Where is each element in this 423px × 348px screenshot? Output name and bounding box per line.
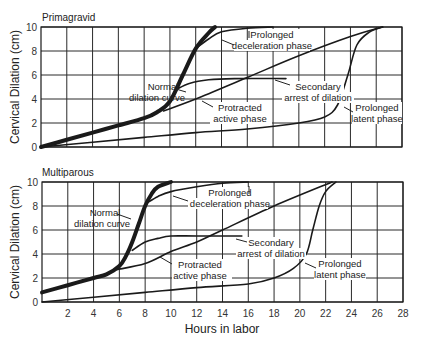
primagravid-panel: Primagravid 0246810 Cervical Dilation (c… <box>8 12 403 153</box>
leader-line <box>275 80 290 85</box>
leader-line <box>160 257 172 264</box>
y-ticks-bottom: 0246810 <box>27 177 39 308</box>
y-tick-label: 6 <box>31 70 37 81</box>
x-tick-label: 4 <box>91 308 97 319</box>
svg-text:Prolonged: Prolonged <box>355 102 398 113</box>
multiparous-panel: Multiparous 0246810 24681012141618202224… <box>8 167 409 336</box>
y-ticks-top: 0246810 <box>26 22 38 153</box>
y-tick-label: 8 <box>31 46 37 57</box>
leader-line <box>202 101 213 107</box>
svg-text:dilation curve: dilation curve <box>74 218 130 229</box>
x-tick-label: 14 <box>217 308 229 319</box>
leader-line <box>305 263 316 268</box>
svg-text:Normal: Normal <box>148 81 179 92</box>
y-tick-label: 2 <box>31 118 37 129</box>
x-tick-label: 16 <box>243 308 255 319</box>
svg-text:latent phase: latent phase <box>351 113 403 124</box>
y-tick-label: 8 <box>32 201 38 212</box>
panel-title-multiparous: Multiparous <box>42 167 94 178</box>
y-tick-label: 10 <box>27 177 39 188</box>
x-tick-label: 2 <box>65 308 71 319</box>
y-tick-label: 0 <box>32 297 38 308</box>
x-tick-label: 26 <box>372 308 384 319</box>
annotation-normal-bottom: Normal dilation curve <box>74 207 131 229</box>
x-axis-label: Hours in labor <box>185 322 260 336</box>
y-tick-label: 10 <box>26 22 38 33</box>
svg-text:Protracted: Protracted <box>218 102 262 113</box>
y-tick-label: 6 <box>32 225 38 236</box>
x-tick-label: 22 <box>320 308 332 319</box>
x-tick-label: 12 <box>191 308 203 319</box>
svg-text:Prolonged: Prolonged <box>208 187 251 198</box>
annotation-latent-bottom: Prolonged latent phase <box>305 258 366 280</box>
x-tick-label: 10 <box>165 308 177 319</box>
svg-text:latent phase: latent phase <box>314 269 366 280</box>
annotation-protracted-top: Protracted active phase <box>202 101 272 124</box>
y-axis-label-bottom: Cervical Dilation (cm) <box>8 185 22 299</box>
x-tick-label: 20 <box>294 308 306 319</box>
x-tick-label: 24 <box>346 308 358 319</box>
annotation-normal-top: Normal dilation curve <box>129 81 186 103</box>
annotation-arrest-bottom: Secondary arrest of dilation <box>236 237 306 259</box>
normal-dilation-curve-line <box>42 182 171 292</box>
grid-top <box>41 27 402 147</box>
svg-text:deceleration phase: deceleration phase <box>232 40 312 51</box>
svg-text:Prolonged: Prolonged <box>318 258 361 269</box>
y-axis-label-top: Cervical Dilation (cm) <box>8 30 22 144</box>
annotation-decel-top: Prolonged deceleration phase <box>222 29 312 51</box>
svg-text:arrest of dilation: arrest of dilation <box>237 248 305 259</box>
svg-text:Secondary: Secondary <box>248 237 294 248</box>
leader-line <box>173 196 188 201</box>
x-tick-label: 18 <box>269 308 281 319</box>
y-tick-label: 4 <box>32 249 38 260</box>
y-tick-label: 4 <box>31 94 37 105</box>
leader-line <box>344 107 353 112</box>
svg-text:active phase: active phase <box>213 113 266 124</box>
y-tick-label: 0 <box>31 142 37 153</box>
x-tick-label: 28 <box>397 308 409 319</box>
svg-text:Secondary: Secondary <box>295 81 341 92</box>
svg-text:deceleration phase: deceleration phase <box>190 198 270 209</box>
x-ticks: 246810121416182022242628 <box>65 308 409 319</box>
labor-dilation-charts: Primagravid 0246810 Cervical Dilation (c… <box>0 0 423 348</box>
leader-line <box>236 239 247 242</box>
svg-text:dilation curve: dilation curve <box>129 92 185 103</box>
svg-text:arrest of dilation: arrest of dilation <box>284 92 352 103</box>
annotation-arrest-top: Secondary arrest of dilation <box>275 80 354 103</box>
x-tick-label: 6 <box>117 308 123 319</box>
svg-text:Prolonged: Prolonged <box>250 29 293 40</box>
y-tick-label: 2 <box>32 273 38 284</box>
panel-title-primagravid: Primagravid <box>42 12 95 23</box>
svg-text:active phase: active phase <box>173 270 226 281</box>
x-tick-label: 8 <box>142 308 148 319</box>
secondary-arrest-of-dilation-line <box>132 236 242 251</box>
annotation-latent-top: Prolonged latent phase <box>344 102 403 124</box>
svg-text:Protracted: Protracted <box>178 259 222 270</box>
svg-text:Normal: Normal <box>90 207 121 218</box>
